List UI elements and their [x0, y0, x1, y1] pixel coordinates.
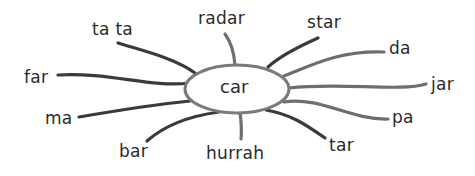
- word-label-da: da: [389, 40, 411, 57]
- spoke-line-star: [268, 38, 318, 67]
- spoke-line-hurrah: [240, 112, 241, 139]
- word-label-ma: ma: [45, 110, 73, 127]
- spoke-line-ta-ta: [118, 43, 195, 73]
- spoke-line-jar: [289, 84, 426, 88]
- word-label-star: star: [307, 14, 341, 31]
- word-label-ta-ta: ta ta: [92, 21, 133, 38]
- word-label-far: far: [24, 69, 48, 86]
- spoke-line-far: [58, 75, 190, 84]
- word-label-tar: tar: [329, 137, 354, 154]
- spoke-line-ma: [79, 101, 190, 117]
- center-word-label: car: [220, 78, 248, 96]
- word-label-jar: jar: [431, 76, 454, 93]
- spoke-line-da: [284, 52, 384, 76]
- word-label-bar: bar: [119, 143, 148, 160]
- word-label-hurrah: hurrah: [206, 145, 264, 162]
- spoke-line-bar: [147, 112, 219, 141]
- word-label-pa: pa: [392, 109, 414, 126]
- spoke-line-pa: [284, 101, 388, 119]
- spoke-line-tar: [266, 110, 325, 138]
- spoke-line-radar: [225, 34, 235, 65]
- word-label-radar: radar: [198, 10, 245, 27]
